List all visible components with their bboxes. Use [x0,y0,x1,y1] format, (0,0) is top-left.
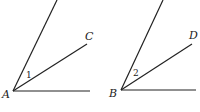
point-label-d: D [188,29,198,42]
vertex-label-b: B [108,87,117,100]
point-label-c: C [85,30,94,43]
angle-label-2: 2 [133,68,139,78]
angle-diagram: A C 1 B D 2 [0,0,200,112]
figure-angle-1: A C 1 [1,0,94,101]
vertex-label-a: A [1,88,10,101]
figure-angle-2: B D 2 [108,0,198,100]
angle-label-1: 1 [26,70,32,80]
